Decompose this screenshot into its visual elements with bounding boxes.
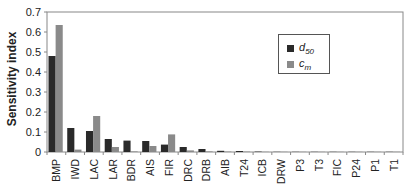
x-tick-label: AIB (219, 159, 231, 176)
sensitivity-bar-chart: Sensitivity index 00.10.20.30.40.50.60.7… (0, 0, 409, 190)
bar-d50-LAC (86, 131, 93, 152)
bar-cm-DRB (206, 151, 213, 152)
y-tick-label: 0.3 (26, 86, 41, 98)
bar-d50-AIB (217, 151, 224, 152)
legend-swatch-d50 (287, 45, 294, 52)
bar-d50-T24 (236, 151, 243, 152)
bar-d50-BMP (48, 56, 55, 152)
legend-swatch-cm (287, 61, 294, 68)
bar-cm-BMP (56, 25, 63, 152)
x-tick-label: T3 (313, 159, 325, 171)
bar-d50-AIS (142, 141, 149, 152)
x-tick-label: DRW (275, 159, 287, 184)
x-tick-label: AIS (144, 159, 156, 176)
y-tick-label: 0 (35, 146, 41, 158)
plot-frame (47, 12, 403, 152)
legend-item-cm: cm (287, 57, 311, 72)
y-tick-label: 0.7 (26, 6, 41, 18)
bar-cm-IWD (74, 150, 81, 152)
x-tick-label: T1 (388, 159, 400, 171)
x-tick-label: BDR (125, 159, 137, 182)
bar-cm-FIR (168, 134, 175, 152)
bar-cm-AIS (149, 146, 156, 152)
legend-label-cm: cm (299, 57, 311, 72)
x-tick-label: FIR (163, 159, 175, 176)
x-tick-label: DRB (200, 159, 212, 181)
bar-cm-DRC (187, 150, 194, 152)
x-tick-label: P1 (369, 159, 381, 172)
x-tick-label: LAR (107, 159, 119, 180)
legend: d50 cm (278, 34, 330, 74)
bar-cm-BDR (131, 151, 138, 152)
y-tick-label: 0.6 (26, 26, 41, 38)
x-tick-label: P24 (350, 159, 362, 178)
x-tick-label: LAC (88, 159, 100, 180)
y-tick-label: 0.4 (26, 66, 41, 78)
y-tick-label: 0.2 (26, 106, 41, 118)
bar-cm-LAR (112, 147, 119, 152)
bar-d50-DRC (180, 147, 187, 152)
y-tick-label: 0.1 (26, 126, 41, 138)
bar-d50-BDR (123, 141, 130, 152)
x-tick-label: ICB (256, 159, 268, 177)
legend-label-d50: d50 (299, 41, 314, 56)
bar-cm-LAC (93, 116, 100, 152)
bar-d50-FIR (161, 145, 168, 152)
bar-d50-LAR (105, 139, 112, 152)
plot-area: 00.10.20.30.40.50.60.7BMPIWDLACLARBDRAIS… (0, 0, 409, 190)
x-tick-label: DRC (182, 159, 194, 182)
y-axis-label: Sensitivity index (5, 29, 19, 129)
x-tick-label: IWD (69, 159, 81, 180)
legend-item-d50: d50 (287, 41, 314, 56)
bar-d50-IWD (67, 128, 74, 152)
y-tick-label: 0.5 (26, 46, 41, 58)
bar-d50-DRB (198, 149, 205, 152)
x-tick-label: FIC (331, 159, 343, 176)
x-tick-label: P3 (294, 159, 306, 172)
x-tick-label: BMP (50, 159, 62, 182)
x-tick-label: T24 (238, 159, 250, 177)
